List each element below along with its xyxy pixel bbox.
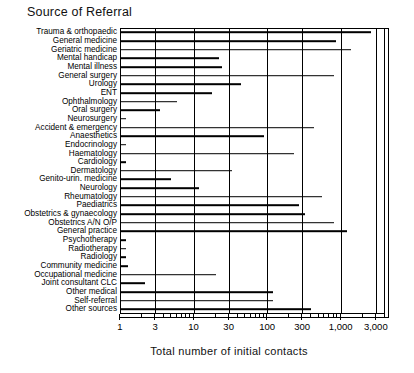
tick-label: 300 xyxy=(294,321,310,332)
bar xyxy=(120,127,314,129)
bar-row: Endocrinology xyxy=(0,141,414,150)
bar xyxy=(120,153,294,155)
tick-minor xyxy=(288,314,289,317)
bar-row: Urology xyxy=(0,80,414,89)
bar xyxy=(120,300,273,302)
bar-row: Neurology xyxy=(0,184,414,193)
bar xyxy=(120,179,171,181)
bar-row: Joint consultant CLC xyxy=(0,279,414,288)
tick-minor xyxy=(263,314,264,317)
tick-minor xyxy=(163,314,164,317)
tick-major xyxy=(228,314,229,320)
bar xyxy=(120,40,336,42)
bar-row: Haematology xyxy=(0,149,414,158)
bar xyxy=(120,309,311,311)
bar xyxy=(120,222,334,224)
tick-label: 10 xyxy=(188,321,199,332)
bar xyxy=(120,118,126,120)
bar-row: Ophthalmology xyxy=(0,97,414,106)
tick-minor xyxy=(185,314,186,317)
chart-root: Source of Referral Trauma & orthopaedicG… xyxy=(0,0,414,373)
tick-minor xyxy=(310,314,311,317)
bar xyxy=(120,239,126,241)
tick-major xyxy=(154,314,155,320)
bar-row: Other medical xyxy=(0,288,414,297)
bar-rows: Trauma & orthopaedicGeneral medicineGeri… xyxy=(0,28,414,314)
bar xyxy=(120,109,160,111)
bar-row: Other sources xyxy=(0,305,414,314)
tick-minor xyxy=(362,314,363,317)
tick-minor xyxy=(215,314,216,317)
bar xyxy=(120,161,126,163)
tick-label: 3,000 xyxy=(364,321,388,332)
bar-row: Oral surgery xyxy=(0,106,414,115)
bar xyxy=(120,196,322,198)
bar xyxy=(120,144,126,146)
bar-row: Accident & emergency xyxy=(0,123,414,132)
tick-major xyxy=(340,314,341,320)
tick-major xyxy=(119,314,120,320)
tick-label: 100 xyxy=(259,321,275,332)
bar-row: Mental handicap xyxy=(0,54,414,63)
tick-major xyxy=(193,314,194,320)
bar-row: Psychotherapy xyxy=(0,236,414,245)
tick-minor xyxy=(328,314,329,317)
tick-minor xyxy=(336,314,337,317)
tick-label: 3 xyxy=(152,321,157,332)
tick-major xyxy=(301,314,302,320)
tick-minor xyxy=(318,314,319,317)
bar-row: Rheumatology xyxy=(0,192,414,201)
tick-major xyxy=(375,314,376,320)
tick-minor xyxy=(170,314,171,317)
bar xyxy=(120,205,299,207)
tick-minor xyxy=(181,314,182,317)
bar xyxy=(120,274,216,276)
bar xyxy=(120,170,232,172)
tick-minor xyxy=(255,314,256,317)
x-axis-title-text: Total number of initial contacts xyxy=(106,345,308,357)
bar xyxy=(120,75,334,77)
bar xyxy=(120,58,219,60)
bar-row: General surgery xyxy=(0,71,414,80)
x-axis-title: Total number of initial contacts xyxy=(0,345,414,357)
tick-label: 1 xyxy=(117,321,122,332)
tick-minor xyxy=(244,314,245,317)
bar xyxy=(120,231,347,233)
tick-minor xyxy=(141,314,142,317)
tick-minor xyxy=(237,314,238,317)
tick-minor xyxy=(384,314,385,317)
bar xyxy=(120,135,264,137)
bar xyxy=(120,213,305,215)
bar xyxy=(120,92,212,94)
bar xyxy=(120,83,241,85)
bar-row: Anaesthetics xyxy=(0,132,414,141)
bar xyxy=(120,66,222,68)
bar-row: Genito-urin. medicine xyxy=(0,175,414,184)
chart-title: Source of Referral xyxy=(27,5,132,19)
tick-major xyxy=(266,314,267,320)
tick-label: 30 xyxy=(223,321,234,332)
tick-minor xyxy=(250,314,251,317)
tick-label: 1,000 xyxy=(329,321,353,332)
tick-minor xyxy=(333,314,334,317)
bar xyxy=(120,49,351,51)
bar xyxy=(120,283,145,285)
bar-row: Self-referral xyxy=(0,296,414,305)
bar xyxy=(120,291,273,293)
tick-minor xyxy=(259,314,260,317)
tick-minor xyxy=(189,314,190,317)
x-axis-tick-labels: 1310301003001,0003,000 xyxy=(0,321,414,335)
bar-row: Radiotherapy xyxy=(0,244,414,253)
bar xyxy=(120,257,126,259)
bar xyxy=(120,187,199,189)
tick-minor xyxy=(176,314,177,317)
bar xyxy=(120,101,177,103)
bar-row: Cardiology xyxy=(0,158,414,167)
bar xyxy=(120,265,128,267)
bar xyxy=(120,248,126,250)
tick-minor xyxy=(323,314,324,317)
category-label: Other sources xyxy=(66,305,117,313)
bar xyxy=(120,32,371,34)
